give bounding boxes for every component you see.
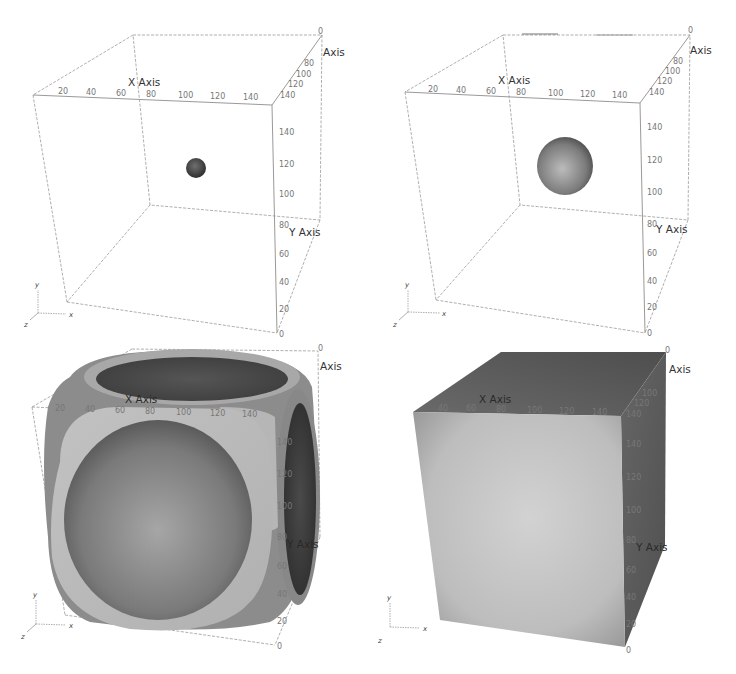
svg-text:140: 140 bbox=[647, 123, 662, 132]
svg-text:40: 40 bbox=[279, 278, 289, 287]
svg-text:60: 60 bbox=[647, 249, 657, 258]
svg-text:120: 120 bbox=[210, 409, 225, 418]
svg-text:40: 40 bbox=[626, 593, 636, 602]
sphere-object bbox=[537, 137, 593, 195]
svg-text:120: 120 bbox=[580, 90, 595, 99]
svg-text:40: 40 bbox=[456, 86, 466, 95]
svg-text:100: 100 bbox=[665, 67, 680, 76]
z-axis-title: Axis bbox=[323, 46, 345, 58]
plot-3d-top-right[interactable]: 20 40 60 80 100 120 140 X Axis 0 20 40 6… bbox=[368, 0, 736, 337]
svg-text:z: z bbox=[392, 321, 397, 329]
panel-top-right: 20 40 60 80 100 120 140 X Axis 0 20 40 6… bbox=[368, 0, 736, 337]
svg-text:z: z bbox=[377, 637, 382, 645]
svg-text:140: 140 bbox=[243, 93, 258, 102]
svg-text:20: 20 bbox=[626, 620, 636, 629]
plot-3d-bottom-right[interactable]: 40 60 80 100 120 140 X Axis 0 20 40 60 8… bbox=[368, 337, 736, 674]
svg-text:20: 20 bbox=[55, 404, 65, 413]
svg-text:40: 40 bbox=[438, 404, 448, 413]
svg-text:z: z bbox=[20, 633, 25, 641]
svg-text:80: 80 bbox=[146, 90, 156, 99]
svg-text:100: 100 bbox=[178, 91, 193, 100]
svg-text:140: 140 bbox=[592, 408, 607, 417]
svg-text:0: 0 bbox=[665, 346, 670, 355]
x-axis-title: X Axis bbox=[125, 393, 157, 405]
svg-text:z: z bbox=[23, 321, 28, 329]
svg-text:20: 20 bbox=[647, 303, 657, 312]
svg-text:60: 60 bbox=[466, 404, 476, 413]
svg-text:60: 60 bbox=[486, 87, 496, 96]
svg-text:100: 100 bbox=[277, 502, 292, 511]
bounding-box bbox=[33, 35, 322, 333]
svg-text:y: y bbox=[404, 281, 410, 289]
svg-text:80: 80 bbox=[277, 533, 287, 542]
svg-text:120: 120 bbox=[277, 470, 292, 479]
svg-text:120: 120 bbox=[634, 399, 649, 408]
svg-text:x: x bbox=[68, 622, 74, 630]
svg-text:80: 80 bbox=[516, 88, 526, 97]
svg-text:y: y bbox=[32, 591, 38, 599]
svg-text:0: 0 bbox=[277, 642, 282, 651]
svg-text:80: 80 bbox=[626, 536, 636, 545]
svg-text:20: 20 bbox=[428, 85, 438, 94]
svg-text:120: 120 bbox=[210, 92, 225, 101]
svg-text:140: 140 bbox=[280, 91, 295, 100]
y-axis-title: Y Axis bbox=[655, 223, 688, 235]
svg-text:120: 120 bbox=[647, 156, 662, 165]
orientation-triad: y x z bbox=[392, 281, 447, 329]
z-axis-title: Axis bbox=[669, 363, 691, 375]
svg-text:20: 20 bbox=[277, 617, 287, 626]
svg-text:y: y bbox=[34, 281, 40, 289]
svg-text:120: 120 bbox=[626, 473, 641, 482]
svg-text:0: 0 bbox=[688, 26, 693, 35]
svg-text:100: 100 bbox=[647, 188, 662, 197]
svg-text:80: 80 bbox=[304, 59, 314, 68]
svg-text:40: 40 bbox=[277, 590, 287, 599]
panel-bottom-right: 40 60 80 100 120 140 X Axis 0 20 40 60 8… bbox=[368, 337, 736, 674]
svg-text:80: 80 bbox=[496, 405, 506, 414]
svg-text:0: 0 bbox=[279, 330, 284, 337]
svg-text:140: 140 bbox=[626, 440, 641, 449]
svg-text:140: 140 bbox=[612, 91, 627, 100]
svg-text:100: 100 bbox=[548, 89, 563, 98]
z-axis-title: Axis bbox=[320, 360, 342, 372]
svg-text:60: 60 bbox=[115, 406, 125, 415]
plot-3d-bottom-left[interactable]: 20 40 60 80 100 120 140 X Axis 0 20 40 6… bbox=[0, 337, 368, 674]
svg-text:60: 60 bbox=[277, 562, 287, 571]
svg-text:20: 20 bbox=[279, 305, 289, 314]
svg-text:60: 60 bbox=[116, 89, 126, 98]
svg-text:20: 20 bbox=[58, 87, 68, 96]
rounded-cube-shell bbox=[44, 349, 320, 630]
svg-text:80: 80 bbox=[145, 407, 155, 416]
svg-text:100: 100 bbox=[626, 506, 641, 515]
svg-text:140: 140 bbox=[626, 410, 641, 419]
svg-text:120: 120 bbox=[657, 77, 672, 86]
svg-text:0: 0 bbox=[626, 646, 631, 655]
svg-text:120: 120 bbox=[559, 407, 574, 416]
svg-text:40: 40 bbox=[86, 88, 96, 97]
svg-text:40: 40 bbox=[85, 405, 95, 414]
svg-text:x: x bbox=[422, 625, 428, 633]
svg-text:y: y bbox=[386, 594, 392, 602]
y-axis-title: Y Axis bbox=[635, 541, 668, 553]
svg-text:140: 140 bbox=[279, 128, 294, 137]
z-axis-title: Axis bbox=[690, 44, 712, 56]
panel-bottom-left: 20 40 60 80 100 120 140 X Axis 0 20 40 6… bbox=[0, 337, 368, 674]
y-axis-title: Y Axis bbox=[286, 538, 319, 550]
x-axis-title: X Axis bbox=[128, 76, 160, 88]
x-axis-title: X Axis bbox=[479, 393, 511, 405]
svg-text:100: 100 bbox=[527, 406, 542, 415]
svg-text:x: x bbox=[68, 311, 74, 319]
orientation-triad: y x z bbox=[23, 281, 74, 329]
plot-3d-top-left[interactable]: 20 40 60 80 100 120 140 X Axis 0 20 40 6… bbox=[0, 0, 368, 337]
sphere-object bbox=[186, 158, 206, 178]
svg-text:80: 80 bbox=[279, 221, 289, 230]
svg-text:100: 100 bbox=[279, 190, 294, 199]
x-axis-title: X Axis bbox=[498, 74, 530, 86]
z-axis-ticks: 0 bbox=[318, 344, 323, 353]
solid-cube bbox=[413, 352, 666, 647]
svg-text:100: 100 bbox=[296, 70, 311, 79]
svg-text:0: 0 bbox=[647, 329, 652, 337]
panel-top-left: 20 40 60 80 100 120 140 X Axis 0 20 40 6… bbox=[0, 0, 368, 337]
orientation-triad: y x z bbox=[377, 594, 428, 645]
svg-text:60: 60 bbox=[626, 566, 636, 575]
